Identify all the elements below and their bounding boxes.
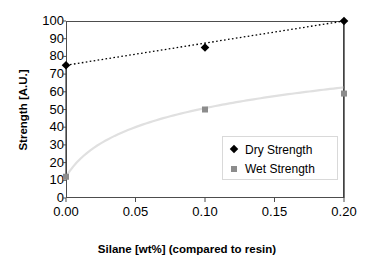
x-axis-tick-label: 0.20	[316, 205, 372, 218]
dry-strength-data-point	[340, 17, 349, 26]
y-axis-tick-label: 0	[18, 191, 64, 204]
y-axis-tick-label: 70	[18, 67, 64, 80]
dry-strength-trend-line	[66, 21, 344, 65]
y-axis-tick-label: 20	[18, 156, 64, 169]
wet-strength-data-point	[63, 174, 69, 180]
diamond-marker-icon	[229, 144, 240, 155]
legend: Dry Strength Wet Strength	[222, 136, 338, 180]
y-axis-tick-label: 90	[18, 32, 64, 45]
y-axis-tick-label: 10	[18, 173, 64, 186]
y-axis-tick-label: 60	[18, 85, 64, 98]
x-axis-tick-label: 0.05	[108, 205, 164, 218]
chart-figure: Strength [A.U.] 0102030405060708090100 0…	[0, 0, 374, 268]
legend-label: Dry Strength	[245, 143, 312, 157]
legend-item-wet-strength: Wet Strength	[229, 159, 337, 178]
x-axis-tick-label: 0.15	[247, 205, 303, 218]
x-axis-tick-label: 0.00	[38, 205, 94, 218]
y-axis-tick-label: 40	[18, 120, 64, 133]
x-axis-title: Silane [wt%] (compared to resin)	[0, 243, 374, 255]
wet-strength-data-point	[202, 107, 208, 113]
y-axis-tick-label: 50	[18, 103, 64, 116]
square-marker-icon	[229, 163, 240, 174]
y-axis-tick-label: 30	[18, 138, 64, 151]
y-axis-tick-label: 80	[18, 49, 64, 62]
legend-item-dry-strength: Dry Strength	[229, 140, 337, 159]
x-axis-tick-label: 0.10	[177, 205, 233, 218]
y-axis-tick-label: 100	[18, 14, 64, 27]
wet-strength-data-point	[341, 91, 347, 97]
legend-label: Wet Strength	[245, 162, 315, 176]
dry-strength-data-point	[201, 43, 210, 52]
